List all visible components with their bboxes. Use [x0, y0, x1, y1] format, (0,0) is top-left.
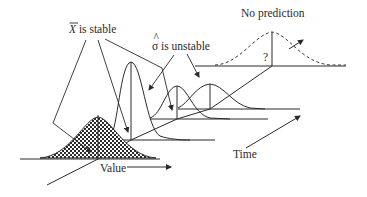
value-axis-label: Value [100, 162, 126, 174]
sigma-hat-mark: ^ [154, 31, 160, 43]
mean-stable-label: X is stable [68, 23, 116, 35]
distribution-t4 [178, 84, 300, 109]
distribution-t2 [110, 62, 215, 140]
value-axis: Value [100, 162, 171, 174]
sigma-unstable-label: σ is unstable [152, 40, 210, 52]
distribution-t1 [20, 115, 160, 159]
time-axis-label-group: Time [233, 116, 300, 160]
question-mark-label: ? [263, 51, 268, 63]
time-axis-label: Time [233, 148, 257, 160]
time-axis-arrow [246, 116, 300, 148]
control-chart-diagram: ? X is stable σ is unstable ^ No predict… [0, 0, 367, 197]
distribution-t5-no-prediction: ? [195, 32, 346, 66]
no-prediction-label: No prediction [241, 7, 305, 20]
sigma-unstable-annotation: σ is unstable ^ [149, 31, 210, 90]
